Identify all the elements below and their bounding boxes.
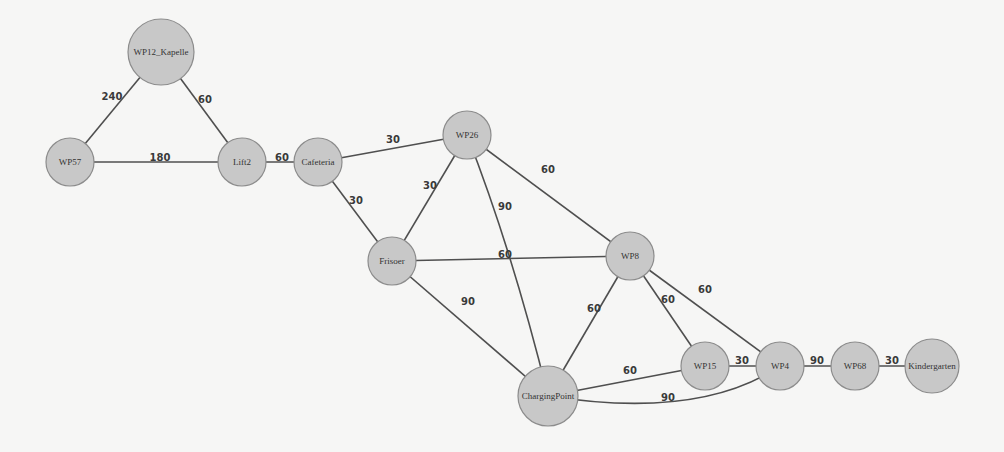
edge-weight-label: 60 xyxy=(698,284,712,295)
edge-weight-label: 60 xyxy=(541,164,555,175)
node-label: WP68 xyxy=(844,361,867,371)
node-label: Kindergarten xyxy=(908,361,956,371)
node-wp57: WP57 xyxy=(46,138,94,186)
node-label: WP4 xyxy=(771,361,790,371)
edge-weight-label: 60 xyxy=(587,303,601,314)
node-kindergarten: Kindergarten xyxy=(905,339,959,393)
node-label: ChargingPoint xyxy=(522,391,575,401)
node-label: WP15 xyxy=(694,361,717,371)
graph-canvas: 2406018060303030609060906060606090309030… xyxy=(0,0,1004,452)
edge-weight-label: 90 xyxy=(461,296,475,307)
node-lift2: Lift2 xyxy=(218,138,266,186)
node-label: WP26 xyxy=(456,130,479,140)
edge-weight-label: 30 xyxy=(349,195,363,206)
edge-wp26-chargingpoint xyxy=(467,135,548,396)
edge-weight-label: 60 xyxy=(623,365,637,376)
node-label: Lift2 xyxy=(233,157,251,167)
edge-layer xyxy=(70,52,932,403)
edge-weight-label: 90 xyxy=(661,392,675,403)
node-label: Cafeteria xyxy=(302,157,335,167)
edge-wp26-wp8 xyxy=(467,135,630,256)
node-label: WP8 xyxy=(621,251,640,261)
node-label: Frisoer xyxy=(379,256,405,266)
edge-weight-label: 60 xyxy=(275,152,289,163)
node-label: WP57 xyxy=(59,157,82,167)
edge-weight-label: 240 xyxy=(102,91,123,102)
edge-weight-label: 30 xyxy=(735,355,749,366)
weighted-graph: 2406018060303030609060906060606090309030… xyxy=(0,0,1004,452)
node-wp15: WP15 xyxy=(681,342,729,390)
node-cafeteria: Cafeteria xyxy=(294,138,342,186)
edge-weight-label: 60 xyxy=(661,294,675,305)
node-wp26: WP26 xyxy=(443,111,491,159)
node-wp4: WP4 xyxy=(756,342,804,390)
edge-weight-label: 30 xyxy=(386,134,400,145)
node-label: WP12_Kapelle xyxy=(134,47,189,57)
node-wp12-kapelle: WP12_Kapelle xyxy=(128,19,194,85)
node-frisoer: Frisoer xyxy=(368,237,416,285)
node-wp68: WP68 xyxy=(831,342,879,390)
node-wp8: WP8 xyxy=(606,232,654,280)
edge-frisoer-chargingpoint xyxy=(392,261,548,396)
edge-weight-label: 60 xyxy=(198,94,212,105)
edge-weight-label: 180 xyxy=(150,152,171,163)
node-chargingpoint: ChargingPoint xyxy=(518,366,578,426)
edge-weight-label: 30 xyxy=(423,180,437,191)
edge-weight-label: 90 xyxy=(810,355,824,366)
edge-weight-label: 60 xyxy=(498,249,512,260)
edge-weight-label: 30 xyxy=(885,355,899,366)
edge-weight-label: 90 xyxy=(498,201,512,212)
